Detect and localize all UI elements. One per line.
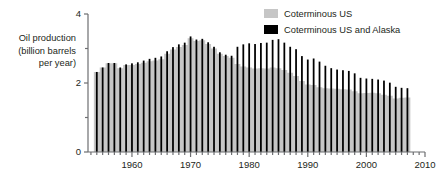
bar-1970 <box>190 36 192 152</box>
bar-1987 <box>289 47 291 152</box>
bar-1976 <box>225 55 227 152</box>
bar-2005 <box>395 87 397 152</box>
bar-1957 <box>113 63 115 152</box>
series-area-coterminous-us <box>94 38 410 152</box>
oil-production-chart-figure: Oil production (billion barrels per year… <box>0 0 445 179</box>
bar-1995 <box>336 70 338 152</box>
y-tick-label-0: 0 <box>76 146 81 157</box>
bar-1955 <box>102 67 104 152</box>
bar-1988 <box>295 49 297 152</box>
y-tick-label-2: 2 <box>76 77 81 88</box>
bar-1966 <box>166 51 168 152</box>
bar-1967 <box>172 47 174 152</box>
bar-1994 <box>330 68 332 152</box>
bar-1961 <box>137 62 139 152</box>
bar-2001 <box>371 79 373 152</box>
bar-1964 <box>155 58 157 152</box>
bar-1977 <box>231 56 233 152</box>
x-tick-label-1980: 1980 <box>239 159 260 170</box>
bar-1992 <box>319 62 321 152</box>
bar-2000 <box>366 79 368 152</box>
bar-1979 <box>242 44 244 152</box>
bar-1968 <box>178 44 180 152</box>
bar-1971 <box>196 40 198 152</box>
bar-1991 <box>313 59 315 153</box>
bar-1983 <box>266 43 268 152</box>
bar-1965 <box>160 56 162 152</box>
bar-1963 <box>149 59 151 152</box>
bar-1984 <box>272 40 274 152</box>
bar-1959 <box>125 64 127 152</box>
bar-1956 <box>108 63 110 152</box>
bar-1978 <box>237 47 239 152</box>
bar-1982 <box>260 43 262 152</box>
chart-plot-area: 024196019701980199020002010 <box>0 0 445 179</box>
bar-1989 <box>301 56 303 152</box>
bar-1962 <box>143 61 145 152</box>
bar-1999 <box>360 78 362 152</box>
x-tick-label-1970: 1970 <box>180 159 201 170</box>
bar-1981 <box>254 44 256 152</box>
bar-1973 <box>207 42 209 152</box>
bar-1975 <box>219 52 221 152</box>
bar-1980 <box>248 43 250 152</box>
bar-2002 <box>377 80 379 152</box>
bar-1986 <box>283 43 285 152</box>
bar-1998 <box>354 73 356 152</box>
bar-1996 <box>342 70 344 152</box>
bar-2003 <box>383 81 385 152</box>
x-tick-label-2000: 2000 <box>356 159 377 170</box>
bar-1993 <box>324 66 326 152</box>
bar-2007 <box>407 88 409 152</box>
bar-1969 <box>184 43 186 152</box>
x-tick-label-2010: 2010 <box>414 159 435 170</box>
x-tick-label-1960: 1960 <box>121 159 142 170</box>
x-tick-label-1990: 1990 <box>297 159 318 170</box>
bar-1960 <box>131 63 133 152</box>
bar-2006 <box>401 88 403 152</box>
bar-1997 <box>348 71 350 152</box>
bar-1958 <box>119 67 121 152</box>
bar-1974 <box>213 47 215 152</box>
bar-1990 <box>307 60 309 152</box>
y-tick-label-4: 4 <box>76 8 81 19</box>
bar-1972 <box>201 39 203 152</box>
bar-1985 <box>278 39 280 152</box>
bar-2004 <box>389 83 391 152</box>
bar-1954 <box>96 72 98 152</box>
